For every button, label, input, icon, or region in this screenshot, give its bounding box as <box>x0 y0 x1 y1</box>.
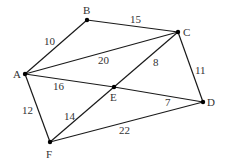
edge-e-d <box>114 87 203 102</box>
edge-weight-c-e: 8 <box>153 56 159 68</box>
node-e-dot <box>112 85 116 89</box>
node-a-label: A <box>13 68 21 80</box>
node-labels-group: ABCDEF <box>13 4 215 160</box>
edge-weight-e-d: 7 <box>165 96 171 108</box>
node-a-dot <box>23 72 27 76</box>
node-c-dot <box>176 30 180 34</box>
edge-weight-e-f: 14 <box>64 110 76 122</box>
node-f-dot <box>48 140 52 144</box>
node-d-dot <box>201 100 205 104</box>
node-b-dot <box>85 18 89 22</box>
edge-a-e <box>25 74 114 87</box>
node-e-label: E <box>110 91 117 103</box>
weighted-graph-diagram: 101520167814111222 ABCDEF <box>0 0 226 164</box>
edge-weight-a-f: 12 <box>22 104 33 116</box>
edge-weight-b-c: 15 <box>130 13 142 25</box>
edge-weight-c-d: 11 <box>195 64 206 76</box>
node-d-label: D <box>207 96 215 108</box>
edge-weight-a-e: 16 <box>53 80 65 92</box>
node-b-label: B <box>83 4 90 16</box>
node-c-label: C <box>183 26 190 38</box>
edge-weight-a-c: 20 <box>98 54 110 66</box>
edge-weight-f-d: 22 <box>119 124 130 136</box>
edge-weight-a-b: 10 <box>44 35 56 47</box>
node-f-label: F <box>46 148 52 160</box>
